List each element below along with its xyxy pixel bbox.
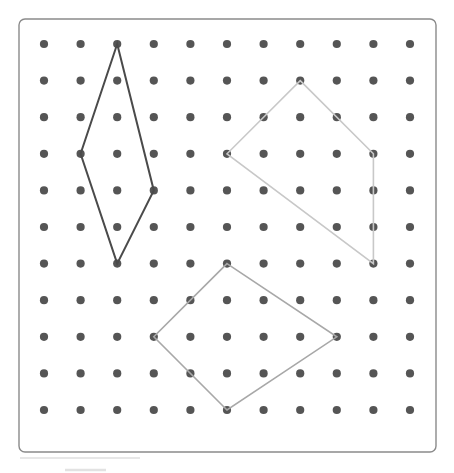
peg-6-8[interactable] — [260, 333, 268, 341]
peg-7-4[interactable] — [296, 186, 304, 194]
peg-10-0[interactable] — [406, 40, 414, 48]
peg-2-2[interactable] — [113, 113, 121, 121]
peg-8-10[interactable] — [333, 406, 341, 414]
peg-0-2[interactable] — [40, 113, 48, 121]
peg-8-0[interactable] — [333, 40, 341, 48]
peg-10-2[interactable] — [406, 113, 414, 121]
peg-6-7[interactable] — [260, 296, 268, 304]
peg-1-4[interactable] — [77, 186, 85, 194]
peg-10-5[interactable] — [406, 223, 414, 231]
peg-1-7[interactable] — [77, 296, 85, 304]
peg-10-4[interactable] — [406, 186, 414, 194]
peg-0-9[interactable] — [40, 369, 48, 377]
peg-5-0[interactable] — [223, 40, 231, 48]
peg-2-10[interactable] — [113, 406, 121, 414]
peg-3-9[interactable] — [150, 369, 158, 377]
peg-2-4[interactable] — [113, 186, 121, 194]
peg-6-5[interactable] — [260, 223, 268, 231]
peg-7-8[interactable] — [296, 333, 304, 341]
peg-8-6[interactable] — [333, 260, 341, 268]
peg-9-10[interactable] — [369, 406, 377, 414]
peg-9-1[interactable] — [369, 77, 377, 85]
peg-4-5[interactable] — [186, 223, 194, 231]
peg-3-3[interactable] — [150, 150, 158, 158]
peg-2-5[interactable] — [113, 223, 121, 231]
peg-3-0[interactable] — [150, 40, 158, 48]
peg-4-0[interactable] — [186, 40, 194, 48]
peg-5-8[interactable] — [223, 333, 231, 341]
peg-10-1[interactable] — [406, 77, 414, 85]
peg-3-6[interactable] — [150, 260, 158, 268]
peg-8-3[interactable] — [333, 150, 341, 158]
peg-10-6[interactable] — [406, 260, 414, 268]
peg-9-2[interactable] — [369, 113, 377, 121]
peg-6-9[interactable] — [260, 369, 268, 377]
peg-1-1[interactable] — [77, 77, 85, 85]
peg-6-0[interactable] — [260, 40, 268, 48]
peg-2-7[interactable] — [113, 296, 121, 304]
peg-7-3[interactable] — [296, 150, 304, 158]
peg-9-8[interactable] — [369, 333, 377, 341]
peg-8-7[interactable] — [333, 296, 341, 304]
peg-8-1[interactable] — [333, 77, 341, 85]
peg-5-5[interactable] — [223, 223, 231, 231]
peg-8-9[interactable] — [333, 369, 341, 377]
peg-5-9[interactable] — [223, 369, 231, 377]
peg-5-1[interactable] — [223, 77, 231, 85]
peg-1-10[interactable] — [77, 406, 85, 414]
peg-0-4[interactable] — [40, 186, 48, 194]
peg-4-6[interactable] — [186, 260, 194, 268]
peg-2-9[interactable] — [113, 369, 121, 377]
peg-6-10[interactable] — [260, 406, 268, 414]
peg-1-0[interactable] — [77, 40, 85, 48]
peg-7-10[interactable] — [296, 406, 304, 414]
peg-0-8[interactable] — [40, 333, 48, 341]
peg-9-0[interactable] — [369, 40, 377, 48]
peg-7-6[interactable] — [296, 260, 304, 268]
peg-10-9[interactable] — [406, 369, 414, 377]
peg-6-4[interactable] — [260, 186, 268, 194]
peg-3-1[interactable] — [150, 77, 158, 85]
peg-10-8[interactable] — [406, 333, 414, 341]
peg-10-3[interactable] — [406, 150, 414, 158]
peg-0-10[interactable] — [40, 406, 48, 414]
peg-1-6[interactable] — [77, 260, 85, 268]
peg-4-4[interactable] — [186, 186, 194, 194]
peg-6-1[interactable] — [260, 77, 268, 85]
peg-5-4[interactable] — [223, 186, 231, 194]
peg-0-6[interactable] — [40, 260, 48, 268]
peg-9-9[interactable] — [369, 369, 377, 377]
peg-4-1[interactable] — [186, 77, 194, 85]
peg-7-2[interactable] — [296, 113, 304, 121]
peg-3-7[interactable] — [150, 296, 158, 304]
peg-6-6[interactable] — [260, 260, 268, 268]
peg-10-7[interactable] — [406, 296, 414, 304]
peg-0-7[interactable] — [40, 296, 48, 304]
peg-8-5[interactable] — [333, 223, 341, 231]
peg-0-1[interactable] — [40, 77, 48, 85]
peg-4-2[interactable] — [186, 113, 194, 121]
peg-5-7[interactable] — [223, 296, 231, 304]
peg-9-7[interactable] — [369, 296, 377, 304]
peg-0-0[interactable] — [40, 40, 48, 48]
peg-3-10[interactable] — [150, 406, 158, 414]
peg-7-9[interactable] — [296, 369, 304, 377]
peg-7-0[interactable] — [296, 40, 304, 48]
peg-2-3[interactable] — [113, 150, 121, 158]
peg-7-5[interactable] — [296, 223, 304, 231]
peg-1-5[interactable] — [77, 223, 85, 231]
peg-4-10[interactable] — [186, 406, 194, 414]
peg-7-7[interactable] — [296, 296, 304, 304]
peg-5-2[interactable] — [223, 113, 231, 121]
peg-2-8[interactable] — [113, 333, 121, 341]
peg-3-5[interactable] — [150, 223, 158, 231]
peg-4-3[interactable] — [186, 150, 194, 158]
peg-2-1[interactable] — [113, 77, 121, 85]
peg-8-4[interactable] — [333, 186, 341, 194]
peg-10-10[interactable] — [406, 406, 414, 414]
peg-6-3[interactable] — [260, 150, 268, 158]
peg-0-3[interactable] — [40, 150, 48, 158]
peg-1-2[interactable] — [77, 113, 85, 121]
peg-0-5[interactable] — [40, 223, 48, 231]
peg-1-8[interactable] — [77, 333, 85, 341]
